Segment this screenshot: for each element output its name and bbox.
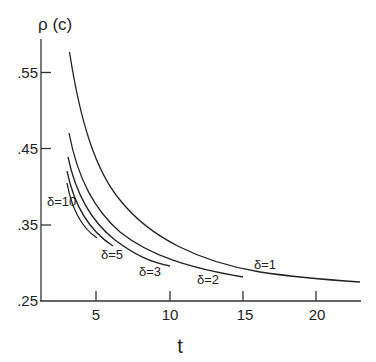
chart-canvas: .55 .45 .35 .25 5 10 15 20 ρ (c) t δ=10 …	[0, 0, 376, 362]
series-label-delta-3: δ=3	[139, 264, 161, 279]
x-tick-label-5: 5	[92, 306, 100, 323]
x-tick-label-20: 20	[309, 306, 326, 323]
y-tick-label-035: .35	[17, 216, 38, 233]
curve-delta-10	[67, 183, 97, 238]
y-tick-label-025: .25	[17, 292, 38, 309]
x-axis-title: t	[177, 335, 183, 357]
x-tick-label-15: 15	[237, 306, 254, 323]
x-tick-label-10: 10	[162, 306, 179, 323]
y-tick-label-055: .55	[17, 64, 38, 81]
series-label-delta-10: δ=10	[47, 194, 76, 209]
series-label-delta-5: δ=5	[101, 247, 123, 262]
y-tick-label-045: .45	[17, 140, 38, 157]
series-label-delta-2: δ=2	[197, 272, 219, 287]
series-label-delta-1: δ=1	[254, 257, 276, 272]
y-axis-title: ρ (c)	[38, 15, 72, 34]
